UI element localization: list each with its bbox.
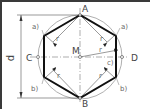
leader-b-left	[42, 77, 44, 84]
label-point-a: A	[82, 4, 89, 14]
diameter-label: d	[5, 55, 16, 61]
label-radius-b-left: r	[57, 72, 60, 80]
label-arc-a-right: a)	[121, 23, 128, 31]
label-point-d: D	[131, 53, 138, 63]
arrow-b-left	[52, 67, 56, 71]
label-point-m: M	[72, 46, 80, 56]
label-radius-a-left: r	[56, 35, 59, 43]
point-c-marker	[37, 56, 40, 59]
dimension-arrow-top	[20, 15, 23, 21]
label-arc-c-right: c)	[107, 59, 114, 67]
label-point-b: B	[82, 99, 88, 109]
label-arc-b-right: b)	[120, 85, 127, 93]
label-arc-a-left: a)	[32, 23, 39, 31]
point-a-marker	[79, 14, 82, 17]
leader-a-left	[42, 30, 44, 36]
arrow-b-right	[104, 67, 108, 71]
point-b-marker	[79, 97, 82, 100]
label-arc-b-left: b)	[31, 85, 38, 93]
point-d-marker	[121, 56, 124, 59]
label-radius-m: r	[99, 46, 102, 54]
dimension-arrow-bottom	[20, 92, 23, 98]
leader-b-right	[116, 77, 119, 85]
label-radius-a-right: r	[100, 35, 103, 43]
leader-a-right	[116, 28, 120, 36]
arrow-a-right	[103, 43, 107, 47]
label-radius-b-right: r	[99, 72, 102, 80]
label-point-c: C	[26, 53, 32, 63]
hexagon-construction-diagram: d A B C D M r r r r r a) a) b) b) c)	[0, 0, 150, 109]
arrow-a-left	[53, 43, 57, 47]
